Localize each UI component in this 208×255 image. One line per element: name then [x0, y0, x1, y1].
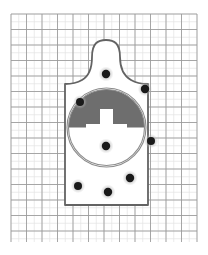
- hole-left-shoulder: [73, 95, 87, 109]
- target-canvas: [0, 0, 208, 255]
- hole-right-shoulder-core: [141, 85, 149, 93]
- hole-bottom-center-core: [104, 188, 112, 196]
- hole-lower-left: [71, 179, 85, 193]
- hole-right-edge-core: [147, 137, 155, 145]
- shooting-target-figure: [0, 0, 208, 255]
- hole-bottom-center: [101, 185, 116, 200]
- hole-lower-left-core: [74, 182, 82, 190]
- hole-head-core: [102, 70, 110, 78]
- hole-center-low-core: [102, 142, 110, 150]
- hole-lower-right-core: [126, 174, 134, 182]
- hole-center-low: [99, 139, 114, 154]
- hole-right-shoulder: [138, 82, 152, 96]
- hole-left-shoulder-core: [76, 98, 84, 106]
- cross-aim-mark-arm: [86, 124, 127, 133]
- hole-right-edge: [144, 134, 158, 148]
- hole-head: [99, 67, 114, 82]
- hole-lower-right: [123, 171, 138, 186]
